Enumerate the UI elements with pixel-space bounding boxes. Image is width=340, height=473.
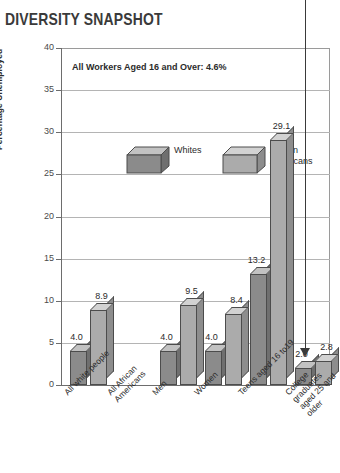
y-axis-tick [56, 217, 62, 218]
bar-value-label: 8.4 [223, 295, 251, 305]
bar [225, 314, 242, 385]
bar-value-label: 8.9 [88, 291, 116, 301]
bar-value-label: 2.8 [313, 342, 340, 352]
y-axis-tick [56, 343, 62, 344]
y-axis-tick [56, 90, 62, 91]
y-axis-tick [56, 48, 62, 49]
y-axis-tick-label: 40 [28, 42, 54, 52]
plot-area: All Workers Aged 16 and Over: 4.6% White… [62, 48, 330, 385]
y-axis-tick [56, 385, 62, 386]
y-axis-title: Percentage Unemployed [0, 49, 4, 150]
bar-front-face [180, 305, 197, 385]
chart-root: DIVERSITY SNAPSHOT All Workers Aged 16 a… [0, 0, 340, 473]
y-axis-tick [56, 132, 62, 133]
pointer-arrow-head [300, 348, 310, 357]
y-axis-tick-label: 20 [28, 211, 54, 221]
y-axis-tick [56, 301, 62, 302]
bar-value-label: 9.5 [178, 286, 206, 296]
bar [180, 305, 197, 385]
bar-side-face [197, 291, 204, 378]
y-axis-tick [56, 259, 62, 260]
bar-value-label: 13.2 [243, 255, 271, 265]
legend: Whites African Americans [126, 140, 326, 178]
bar-front-face [225, 314, 242, 385]
title-divider [0, 32, 340, 33]
legend-label-whites: Whites [174, 145, 202, 156]
bar-value-label: 4.0 [153, 332, 181, 342]
legend-cube-icon [126, 146, 170, 174]
page-title: DIVERSITY SNAPSHOT [5, 10, 163, 30]
y-axis-tick-label: 5 [28, 337, 54, 347]
bar-value-label: 29.1 [268, 121, 296, 131]
y-axis-tick-label: 30 [28, 126, 54, 136]
y-axis-tick-label: 0 [28, 379, 54, 389]
y-axis-tick [56, 174, 62, 175]
y-axis-tick-label: 15 [28, 253, 54, 263]
y-axis-tick-label: 25 [28, 168, 54, 178]
chart-annotation: All Workers Aged 16 and Over: 4.6% [72, 62, 227, 72]
gridline [62, 90, 330, 91]
y-axis-tick-label: 35 [28, 84, 54, 94]
bar-value-label: 4.0 [63, 332, 91, 342]
y-axis-tick-label: 10 [28, 295, 54, 305]
legend-cube-icon [222, 146, 266, 174]
pointer-arrow-line [305, 0, 306, 352]
